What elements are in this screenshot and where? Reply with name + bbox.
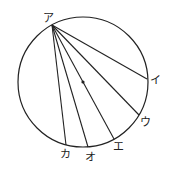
chord-a-ka — [52, 25, 66, 145]
circle-chord-diagram: ア イ ウ エ オ カ — [0, 0, 173, 173]
label-o: オ — [85, 151, 96, 164]
label-e: エ — [113, 140, 124, 153]
label-u: ウ — [140, 116, 151, 129]
label-ka: カ — [60, 148, 71, 161]
label-i: イ — [150, 74, 161, 87]
label-a: ア — [43, 12, 54, 25]
